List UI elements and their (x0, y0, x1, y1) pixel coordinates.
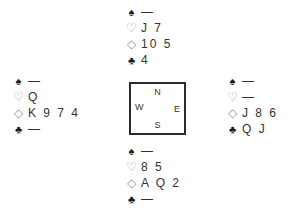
south-spades-row: ♠ — (125, 143, 181, 159)
south-spades: — (141, 143, 155, 159)
west-clubs-row: ♣ — (12, 121, 80, 137)
west-diamonds: K 9 7 4 (28, 105, 80, 121)
south-hearts: 8 5 (141, 159, 164, 175)
north-spades: — (141, 4, 155, 20)
west-diamonds-row: ◇ K 9 7 4 (12, 105, 80, 121)
north-clubs: 4 (141, 52, 150, 68)
compass-box: N W E S (129, 82, 186, 135)
spade-icon: ♠ (125, 4, 138, 20)
club-icon: ♣ (12, 121, 25, 137)
west-hearts: Q (28, 89, 39, 105)
east-spades-row: ♠ — (226, 73, 278, 89)
north-spades-row: ♠ — (125, 4, 172, 20)
west-hand: ♠ — ♡ Q ◇ K 9 7 4 ♣ — (12, 73, 80, 137)
west-spades-row: ♠ — (12, 73, 80, 89)
club-icon: ♣ (125, 52, 138, 68)
north-diamonds-row: ◇ 10 5 (125, 36, 172, 52)
compass-west-label: W (135, 102, 144, 112)
compass-south-label: S (131, 120, 184, 130)
east-diamonds: J 8 6 (242, 105, 278, 121)
north-hand: ♠ — ♡ J 7 ◇ 10 5 ♣ 4 (125, 4, 172, 68)
compass-east-label: E (174, 104, 180, 114)
diamond-icon: ◇ (125, 175, 138, 191)
east-hearts-row: ♡ — (226, 89, 278, 105)
south-hand: ♠ — ♡ 8 5 ◇ A Q 2 ♣ — (125, 143, 181, 207)
west-clubs: — (28, 121, 42, 137)
south-clubs-row: ♣ — (125, 191, 181, 207)
west-hearts-row: ♡ Q (12, 89, 80, 105)
heart-icon: ♡ (12, 89, 25, 105)
east-clubs: Q J (242, 121, 267, 137)
north-hearts: J 7 (141, 20, 163, 36)
spade-icon: ♠ (12, 73, 25, 89)
east-clubs-row: ♣ Q J (226, 121, 278, 137)
east-hearts: — (242, 89, 256, 105)
club-icon: ♣ (125, 191, 138, 207)
east-diamonds-row: ◇ J 8 6 (226, 105, 278, 121)
south-diamonds-row: ◇ A Q 2 (125, 175, 181, 191)
north-hearts-row: ♡ J 7 (125, 20, 172, 36)
diamond-icon: ◇ (12, 105, 25, 121)
north-clubs-row: ♣ 4 (125, 52, 172, 68)
heart-icon: ♡ (125, 159, 138, 175)
south-hearts-row: ♡ 8 5 (125, 159, 181, 175)
east-hand: ♠ — ♡ — ◇ J 8 6 ♣ Q J (226, 73, 278, 137)
east-spades: — (242, 73, 256, 89)
west-spades: — (28, 73, 42, 89)
heart-icon: ♡ (226, 89, 239, 105)
diamond-icon: ◇ (226, 105, 239, 121)
heart-icon: ♡ (125, 20, 138, 36)
north-diamonds: 10 5 (141, 36, 172, 52)
spade-icon: ♠ (125, 143, 138, 159)
south-clubs: — (141, 191, 155, 207)
spade-icon: ♠ (226, 73, 239, 89)
club-icon: ♣ (226, 121, 239, 137)
diamond-icon: ◇ (125, 36, 138, 52)
south-diamonds: A Q 2 (141, 175, 181, 191)
compass-north-label: N (131, 87, 184, 97)
